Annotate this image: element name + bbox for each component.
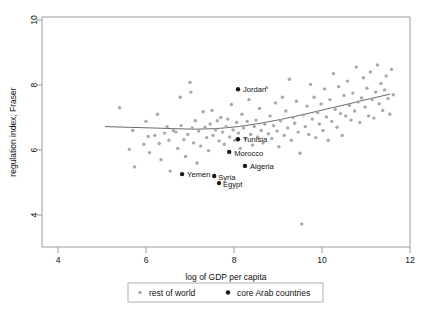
data-point-rest-of-world [341, 134, 344, 137]
data-point-core-arab [217, 181, 221, 185]
x-tick-label: 12 [405, 255, 415, 265]
data-point-rest-of-world [286, 126, 289, 129]
data-point-rest-of-world [298, 152, 301, 155]
data-point-rest-of-world [305, 104, 308, 107]
data-point-rest-of-world [169, 169, 172, 172]
data-point-rest-of-world [321, 129, 324, 132]
data-point-rest-of-world [268, 114, 271, 117]
data-point-rest-of-world [351, 91, 354, 94]
core-arab-points: JordanTunisiaMoroccoAlgeriaYemenSyriaEgy… [180, 85, 275, 189]
data-point-rest-of-world [376, 63, 379, 66]
data-point-rest-of-world [304, 125, 307, 128]
data-point-rest-of-world [186, 133, 189, 136]
data-point-rest-of-world [316, 111, 319, 114]
data-point-rest-of-world [246, 120, 249, 123]
data-point-rest-of-world [226, 117, 229, 120]
data-point-rest-of-world [288, 78, 291, 81]
data-point-rest-of-world [363, 105, 366, 108]
data-point-rest-of-world [260, 129, 263, 132]
data-point-rest-of-world [207, 149, 210, 152]
data-point-rest-of-world [295, 100, 298, 103]
chart-legend[interactable]: rest of worldcore Arab countries [128, 283, 323, 302]
axes-layer: 468104681012 [29, 15, 415, 265]
scatter-plot: 468104681012 JordanTunisiaMoroccoAlgeria… [0, 0, 422, 314]
data-point-rest-of-world [118, 106, 121, 109]
country-label: Yemen [187, 170, 210, 179]
data-point-rest-of-world [353, 109, 356, 112]
data-point-rest-of-world [330, 120, 333, 123]
data-point-rest-of-world [291, 116, 294, 119]
data-point-rest-of-world [323, 87, 326, 90]
data-point-rest-of-world [209, 122, 212, 125]
data-point-rest-of-world [142, 143, 145, 146]
x-tick-label: 6 [144, 255, 149, 265]
data-point-rest-of-world [144, 120, 147, 123]
data-point-rest-of-world [210, 109, 213, 112]
data-point-rest-of-world [194, 119, 197, 122]
data-point-rest-of-world [240, 113, 243, 116]
data-point-rest-of-world [270, 137, 273, 140]
data-point-rest-of-world [328, 98, 331, 101]
data-point-rest-of-world [253, 125, 256, 128]
data-point-rest-of-world [216, 119, 219, 122]
data-point-rest-of-world [188, 81, 191, 84]
legend-marker-rest-of-world[interactable] [138, 291, 141, 294]
data-point-rest-of-world [228, 135, 231, 138]
data-point-rest-of-world [349, 118, 352, 121]
legend-label-rest-of-world[interactable]: rest of world [149, 288, 196, 298]
x-tick-label: 10 [317, 255, 327, 265]
data-point-rest-of-world [158, 142, 161, 145]
data-point-rest-of-world [131, 129, 134, 132]
data-point-rest-of-world [334, 108, 337, 111]
data-point-rest-of-world [159, 158, 162, 161]
data-point-rest-of-world [281, 96, 284, 99]
data-point-rest-of-world [274, 101, 277, 104]
data-point-rest-of-world [275, 129, 278, 132]
data-point-rest-of-world [355, 65, 358, 68]
data-point-rest-of-world [284, 109, 287, 112]
country-label: Morocco [234, 149, 263, 158]
data-point-rest-of-world [365, 87, 368, 90]
data-point-rest-of-world [235, 121, 238, 124]
x-axis-title: log of GDP per capita [185, 272, 266, 282]
data-point-rest-of-world [263, 122, 266, 125]
legend-marker-core-Arab-countries[interactable] [226, 290, 230, 294]
data-point-rest-of-world [388, 113, 391, 116]
data-point-rest-of-world [318, 122, 321, 125]
data-point-rest-of-world [176, 147, 179, 150]
y-axis-title: regulation index, Fraser [8, 87, 18, 176]
chart-canvas: 468104681012 JordanTunisiaMoroccoAlgeria… [0, 0, 422, 314]
data-point-rest-of-world [230, 103, 233, 106]
data-point-rest-of-world [390, 68, 393, 71]
data-point-rest-of-world [133, 165, 136, 168]
data-point-rest-of-world [346, 79, 349, 82]
data-point-rest-of-world [302, 113, 305, 116]
data-point-rest-of-world [332, 72, 335, 75]
data-point-rest-of-world [182, 138, 185, 141]
data-point-rest-of-world [148, 151, 151, 154]
data-point-rest-of-world [362, 76, 365, 79]
data-point-rest-of-world [335, 126, 338, 129]
data-point-rest-of-world [372, 116, 375, 119]
data-point-rest-of-world [180, 124, 183, 127]
legend-label-core-Arab-countries[interactable]: core Arab countries [237, 288, 310, 298]
data-point-rest-of-world [189, 90, 192, 93]
data-point-rest-of-world [344, 114, 347, 117]
data-point-core-arab [236, 137, 240, 141]
data-point-rest-of-world [358, 121, 361, 124]
data-point-rest-of-world [231, 128, 234, 131]
data-point-rest-of-world [392, 93, 395, 96]
data-point-rest-of-world [147, 135, 150, 138]
data-point-rest-of-world [297, 130, 300, 133]
data-point-rest-of-world [314, 136, 317, 139]
data-point-rest-of-world [128, 148, 131, 151]
y-tick-label: 8 [29, 82, 39, 87]
data-point-rest-of-world [254, 118, 257, 121]
y-tick-label: 10 [29, 15, 39, 25]
data-point-rest-of-world [283, 134, 286, 137]
data-point-rest-of-world [290, 139, 293, 142]
data-point-rest-of-world [191, 126, 194, 129]
data-point-rest-of-world [167, 139, 170, 142]
y-tick-label: 4 [29, 212, 39, 217]
data-point-rest-of-world [224, 125, 227, 128]
